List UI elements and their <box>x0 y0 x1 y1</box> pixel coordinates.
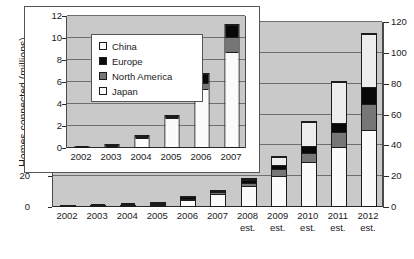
bar-segment-japan-2005 <box>151 205 165 206</box>
inset-x-tick-label-2003: 2003 <box>96 151 126 162</box>
inset-bar-segment-japan-2003 <box>106 146 119 147</box>
right-y-tick-label-20: 20 <box>391 170 414 181</box>
bar-segment-north-america-2009 <box>272 169 286 176</box>
right-y-tick-mark <box>384 145 389 146</box>
bar-segment-japan-2008 <box>242 186 256 206</box>
bar-segment-china-2011 <box>332 82 346 123</box>
right-y-tick-mark <box>384 115 389 116</box>
inset-y-tick-mark <box>62 82 66 83</box>
bar-slot-2012 <box>354 22 384 207</box>
left-y-tick-label-0: 0 <box>0 201 30 212</box>
x-tick-label-2011: 2011est. <box>323 210 353 233</box>
inset-y-tick-mark <box>62 38 66 39</box>
x-tick-label-2009: 2009est. <box>263 210 293 233</box>
inset-x-tick-label-2006: 2006 <box>186 151 216 162</box>
left-y-tick-mark <box>48 176 52 177</box>
bar-segment-japan-2012 <box>362 130 376 206</box>
x-tick-estimate-note: est. <box>293 222 323 234</box>
inset-bar-2002 <box>75 146 90 148</box>
right-y-tick-mark <box>384 84 389 85</box>
x-tick-estimate-note: est. <box>353 222 383 234</box>
inset-y-tick-label-12: 12 <box>38 10 62 21</box>
right-y-tick-label-120: 120 <box>391 16 414 27</box>
inset-bar-2005 <box>165 115 180 148</box>
x-tick-label-2012: 2012est. <box>353 210 383 233</box>
inset-x-tick-label-2007: 2007 <box>216 151 246 162</box>
bar-2002 <box>60 205 76 207</box>
bar-segment-japan-2010 <box>302 162 316 206</box>
inset-bar-segment-japan-2007 <box>226 52 239 147</box>
bar-2008 <box>241 178 257 207</box>
inset-y-tick-mark <box>62 16 66 17</box>
right-y-tick-label-100: 100 <box>391 47 414 58</box>
bar-segment-north-america-2011 <box>332 132 346 146</box>
x-tick-label-2005: 2005 <box>142 210 172 222</box>
bar-2006 <box>180 196 196 207</box>
legend-swatch-north-america-icon <box>99 72 107 80</box>
inset-y-tick-label-4: 4 <box>38 98 62 109</box>
inset-bar-segment-japan-2005 <box>166 118 179 147</box>
right-y-tick-label-0: 0 <box>391 201 414 212</box>
bar-2009 <box>271 156 287 207</box>
bar-segment-japan-2011 <box>332 147 346 206</box>
x-tick-label-2006: 2006 <box>172 210 202 222</box>
legend-item-japan: Japan <box>99 85 196 97</box>
bar-2011 <box>331 81 347 207</box>
x-tick-label-2010: 2010est. <box>293 210 323 233</box>
legend-swatch-china-icon <box>99 42 107 50</box>
inset-bar-segment-japan-2004 <box>136 138 149 147</box>
x-tick-label-2004: 2004 <box>112 210 142 222</box>
inset-bar-slot-2007 <box>217 16 247 148</box>
inset-y-tick-label-6: 6 <box>38 76 62 87</box>
right-y-tick-label-40: 40 <box>391 139 414 150</box>
inset-bar-segment-japan-2002 <box>76 146 89 147</box>
legend: China Europe North America Japan <box>91 34 203 102</box>
inset-x-tick-label-2004: 2004 <box>126 151 156 162</box>
inset-bar-2007 <box>225 24 240 148</box>
inset-y-tick-label-8: 8 <box>38 54 62 65</box>
x-tick-estimate-note: est. <box>233 222 263 234</box>
legend-swatch-europe-icon <box>99 57 107 65</box>
right-y-tick-mark <box>384 22 389 23</box>
left-y-tick-mark <box>48 207 52 208</box>
legend-item-china: China <box>99 40 196 52</box>
legend-label-europe: Europe <box>112 56 143 67</box>
x-tick-label-2008: 2008est. <box>233 210 263 233</box>
x-tick-estimate-note: est. <box>263 222 293 234</box>
inset-y-tick-label-0: 0 <box>38 142 62 153</box>
bar-segment-china-2012 <box>362 34 376 87</box>
right-y-tick-mark <box>384 207 389 208</box>
bar-segment-japan-2006 <box>181 200 195 206</box>
bar-2007 <box>210 190 226 207</box>
inset-x-tick-label-2002: 2002 <box>66 151 96 162</box>
legend-swatch-japan-icon <box>99 87 107 95</box>
inset-y-tick-mark <box>62 148 66 149</box>
inset-y-tick-label-2: 2 <box>38 120 62 131</box>
right-y-tick-label-60: 60 <box>391 109 414 120</box>
bar-slot-2010 <box>294 22 324 207</box>
bar-2005 <box>150 202 166 207</box>
bar-segment-japan-2007 <box>211 194 225 206</box>
legend-item-north-america: North America <box>99 70 196 82</box>
bar-segment-japan-2002 <box>61 205 75 206</box>
legend-label-china: China <box>112 41 137 52</box>
inset-y-tick-mark <box>62 60 66 61</box>
inset-y-tick-mark <box>62 104 66 105</box>
inset-x-tick-label-2005: 2005 <box>156 151 186 162</box>
inset-y-tick-label-10: 10 <box>38 32 62 43</box>
bar-segment-japan-2003 <box>91 205 105 206</box>
bar-slot-2011 <box>324 22 354 207</box>
x-tick-label-2003: 2003 <box>82 210 112 222</box>
bar-segment-north-america-2010 <box>302 153 316 163</box>
bar-segment-europe-2010 <box>302 146 316 153</box>
x-tick-label-2002: 2002 <box>52 210 82 222</box>
inset-bar-2003 <box>105 144 120 148</box>
inset-panel: China Europe North America Japan 2002200… <box>24 6 260 173</box>
right-y-tick-mark <box>384 176 389 177</box>
bar-segment-japan-2009 <box>272 176 286 206</box>
bar-slot-2009 <box>264 22 294 207</box>
bar-segment-north-america-2012 <box>362 104 376 130</box>
bar-segment-china-2009 <box>272 157 286 165</box>
bar-2003 <box>90 205 106 207</box>
bar-2010 <box>301 121 317 207</box>
